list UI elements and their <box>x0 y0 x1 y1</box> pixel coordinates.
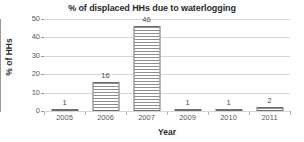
bar-value-label: 1 <box>62 99 66 107</box>
bar-group: 1 <box>44 19 85 111</box>
bar-group: 46 <box>126 19 167 111</box>
y-axis-tick-labels: 01020304050 <box>14 19 40 111</box>
y-axis-tick-mark <box>41 93 44 94</box>
bar-value-label: 46 <box>142 16 150 24</box>
x-axis-tick-label: 2007 <box>126 113 167 122</box>
bar-value-label: 1 <box>185 99 189 107</box>
x-axis-tick-mark <box>126 112 127 115</box>
y-axis-tick-label: 40 <box>16 33 40 41</box>
x-axis-tick-mark <box>167 112 168 115</box>
x-axis-tick-mark <box>249 112 250 115</box>
plot-area: 11646112 <box>44 19 290 111</box>
bar-group: 16 <box>85 19 126 111</box>
x-axis-tick-mark <box>208 112 209 115</box>
bar-value-label: 16 <box>101 72 109 80</box>
x-axis-tick-label: 2011 <box>249 113 290 122</box>
chart-title: % of displaced HHs due to waterlogging <box>0 3 304 13</box>
bar-group: 2 <box>249 19 290 111</box>
y-axis-tick-mark <box>41 74 44 75</box>
bar[interactable] <box>92 82 119 111</box>
y-axis-tick-mark <box>41 56 44 57</box>
y-axis-tick-mark <box>41 19 44 20</box>
x-axis-tick-mark <box>290 112 291 115</box>
bar-group: 1 <box>208 19 249 111</box>
bar[interactable] <box>215 109 242 111</box>
x-axis-title: Year <box>44 127 290 137</box>
y-axis-tick-label: 0 <box>16 107 40 115</box>
y-axis-line <box>0 19 1 112</box>
y-axis-tick-label: 30 <box>16 52 40 60</box>
bar-value-label: 1 <box>226 99 230 107</box>
x-axis-tick-mark <box>85 112 86 115</box>
y-axis-tick-label: 10 <box>16 89 40 97</box>
bar-value-label: 2 <box>267 97 271 105</box>
x-axis-tick-label: 2006 <box>85 113 126 122</box>
x-axis-tick-label: 2005 <box>44 113 85 122</box>
y-axis-tick-mark <box>41 37 44 38</box>
chart-container: % of displaced HHs due to waterlogging %… <box>0 0 304 142</box>
bar-group: 1 <box>167 19 208 111</box>
bar[interactable] <box>174 109 201 111</box>
y-axis-title: % of HHs <box>4 34 14 80</box>
y-axis-tick-label: 20 <box>16 70 40 78</box>
bar[interactable] <box>256 107 283 111</box>
bar[interactable] <box>51 109 78 111</box>
x-axis-tick-label: 2009 <box>167 113 208 122</box>
x-axis-tick-label: 2010 <box>208 113 249 122</box>
y-axis-tick-label: 50 <box>16 15 40 23</box>
x-axis-tick-mark <box>44 112 45 115</box>
bar[interactable] <box>133 26 160 111</box>
